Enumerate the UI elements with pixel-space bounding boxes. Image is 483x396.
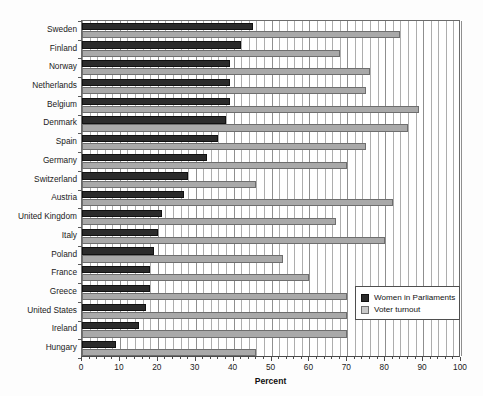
x-axis-tick	[316, 357, 317, 359]
y-axis-tick	[78, 227, 82, 228]
x-axis-tick	[308, 357, 309, 361]
bar-row	[82, 190, 459, 209]
y-axis-tick	[78, 133, 82, 134]
bar-voter-turnout	[82, 124, 408, 131]
bar-women-in-parliaments	[82, 135, 218, 142]
y-axis-label-finland: Finland	[50, 44, 77, 52]
chart-figure: SwedenFinlandNorwayNetherlandsBelgiumDen…	[0, 0, 483, 396]
x-axis-tick	[384, 357, 385, 361]
legend-item-voter-turnout: Voter turnout	[361, 306, 455, 314]
x-axis-tick-label: 30	[180, 363, 210, 371]
y-axis-label-poland: Poland	[51, 250, 77, 258]
bar-row	[82, 115, 459, 134]
x-axis-tick	[225, 357, 226, 359]
x-axis-tick	[422, 357, 423, 361]
y-axis-tick	[78, 77, 82, 78]
bar-women-in-parliaments	[82, 191, 184, 198]
bar-women-in-parliaments	[82, 116, 226, 123]
y-axis-tick	[78, 283, 82, 284]
x-axis-tick	[460, 357, 461, 361]
legend-item-women-in-parliaments: Women in Parliaments	[361, 294, 455, 302]
y-axis-label-sweden: Sweden	[47, 25, 77, 33]
x-axis-tick	[263, 357, 264, 359]
x-axis-tick	[217, 357, 218, 359]
y-axis-tick	[78, 96, 82, 97]
y-axis-label-france: France	[51, 268, 77, 276]
bar-voter-turnout	[82, 218, 336, 225]
x-axis-tick	[354, 357, 355, 359]
x-axis-tick	[346, 357, 347, 361]
bar-row	[82, 339, 459, 358]
x-axis-tick	[233, 357, 234, 361]
x-axis-tick	[149, 357, 150, 359]
x-axis-tick	[142, 357, 143, 359]
x-axis-tick	[157, 357, 158, 361]
x-axis-tick-label: 60	[293, 363, 323, 371]
legend-swatch-icon-light	[361, 306, 369, 314]
bar-row	[82, 227, 459, 246]
bar-women-in-parliaments	[82, 266, 150, 273]
bar-voter-turnout	[82, 50, 340, 57]
x-axis-tick	[324, 357, 325, 359]
x-axis-tick	[96, 357, 97, 359]
y-axis-label-hungary: Hungary	[46, 343, 77, 351]
x-axis-tick	[278, 357, 279, 359]
bar-row	[82, 133, 459, 152]
y-axis-label-norway: Norway	[49, 62, 77, 70]
y-axis-tick	[78, 246, 82, 247]
x-axis-tick	[407, 357, 408, 359]
bar-voter-turnout	[82, 330, 347, 337]
y-axis-label-netherlands: Netherlands	[32, 81, 77, 89]
bar-women-in-parliaments	[82, 172, 188, 179]
gridline	[461, 21, 462, 356]
bar-women-in-parliaments	[82, 285, 150, 292]
legend-label-women-in-parliaments: Women in Parliaments	[374, 294, 455, 302]
x-axis-tick	[126, 357, 127, 359]
bar-voter-turnout	[82, 255, 283, 262]
y-axis-tick	[78, 339, 82, 340]
y-axis-labels: SwedenFinlandNorwayNetherlandsBelgiumDen…	[0, 20, 77, 357]
bar-voter-turnout	[82, 312, 347, 319]
x-axis-tick	[164, 357, 165, 359]
x-axis-tick-label: 70	[331, 363, 361, 371]
x-axis-tick	[437, 357, 438, 359]
x-axis-tick	[180, 357, 181, 359]
bar-voter-turnout	[82, 349, 256, 356]
x-axis-tick	[195, 357, 196, 361]
bar-voter-turnout	[82, 143, 366, 150]
y-axis-tick	[78, 208, 82, 209]
x-axis-tick	[134, 357, 135, 359]
bar-row	[82, 58, 459, 77]
bar-women-in-parliaments	[82, 60, 230, 67]
y-axis-tick	[78, 115, 82, 116]
x-axis-tick	[104, 357, 105, 359]
bar-row	[82, 96, 459, 115]
bar-voter-turnout	[82, 31, 400, 38]
x-axis-tick	[81, 357, 82, 361]
bar-women-in-parliaments	[82, 210, 162, 217]
bar-voter-turnout	[82, 162, 347, 169]
x-axis-tick	[286, 357, 287, 359]
y-axis-label-switzerland: Switzerland	[34, 175, 77, 183]
y-axis-label-belgium: Belgium	[47, 100, 77, 108]
x-axis-tick	[293, 357, 294, 359]
x-axis-tick	[240, 357, 241, 359]
y-axis-tick	[78, 171, 82, 172]
bar-row	[82, 208, 459, 227]
bar-row	[82, 171, 459, 190]
y-axis-label-ireland: Ireland	[52, 324, 77, 332]
y-axis-tick	[78, 190, 82, 191]
x-axis-tick	[445, 357, 446, 359]
x-axis-tick-label: 80	[369, 363, 399, 371]
bar-row	[82, 152, 459, 171]
x-axis-tick-label: 90	[407, 363, 437, 371]
bar-row	[82, 246, 459, 265]
y-axis-label-united-states: United States	[27, 306, 77, 314]
x-axis-tick	[415, 357, 416, 359]
bar-women-in-parliaments	[82, 41, 241, 48]
x-axis-tick	[255, 357, 256, 359]
x-axis-tick	[89, 357, 90, 359]
bar-women-in-parliaments	[82, 154, 207, 161]
y-axis-tick	[78, 58, 82, 59]
bar-row	[82, 21, 459, 40]
